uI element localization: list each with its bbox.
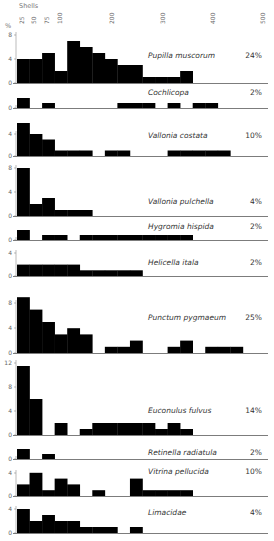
x-tick-label: 500 bbox=[259, 12, 266, 24]
histogram-bar bbox=[42, 235, 55, 240]
histogram-bar bbox=[92, 490, 105, 496]
y-tick-label: 0 bbox=[8, 236, 12, 243]
histogram-bar bbox=[80, 270, 93, 276]
x-tick-label: 100 bbox=[56, 12, 63, 24]
y-tick-label: 4 bbox=[8, 505, 12, 512]
histogram-bar bbox=[205, 103, 218, 108]
histogram-bar bbox=[30, 134, 43, 156]
x-tick-label: 400 bbox=[209, 12, 216, 24]
histogram-bar bbox=[130, 527, 143, 533]
x-axis-label: Shells bbox=[19, 2, 39, 10]
histogram-bar bbox=[105, 151, 118, 157]
species-percent: 10% bbox=[245, 131, 262, 140]
species-name: Vitrina pellucida bbox=[148, 467, 209, 476]
histogram-bar bbox=[42, 322, 55, 353]
species-percent: 4% bbox=[250, 197, 262, 206]
histogram-bar bbox=[67, 521, 80, 533]
y-tick-label: 12 bbox=[4, 359, 12, 366]
species-panel: 048Vallonia pulchella4% bbox=[8, 164, 268, 219]
histogram-bar bbox=[30, 265, 43, 276]
histogram-bar bbox=[218, 151, 231, 157]
histogram-bar bbox=[155, 77, 168, 83]
x-tick-label: 75 bbox=[43, 16, 50, 24]
histogram-bar bbox=[17, 230, 30, 240]
x-tick-label: 300 bbox=[159, 12, 166, 24]
histogram-bar bbox=[92, 53, 105, 83]
histogram-bar bbox=[180, 429, 193, 435]
histogram-bar bbox=[180, 341, 193, 353]
histogram-bar bbox=[55, 479, 68, 496]
histogram-bar bbox=[143, 490, 156, 496]
histogram-bar bbox=[143, 103, 156, 108]
histogram-bar bbox=[168, 103, 181, 108]
x-tick-label: 50 bbox=[30, 16, 37, 24]
histogram-bar bbox=[55, 235, 68, 240]
histogram-bar bbox=[42, 515, 55, 533]
histogram-bar bbox=[55, 210, 68, 216]
y-tick-label: 4 bbox=[8, 130, 12, 137]
species-panel: 0Hygromia hispida2% bbox=[8, 222, 268, 243]
species-percent: 14% bbox=[245, 406, 262, 415]
species-panel: 0Cochlicopa2% bbox=[8, 88, 268, 111]
histogram-bar bbox=[168, 77, 181, 83]
y-tick-label: 0 bbox=[8, 529, 12, 536]
histogram-bar bbox=[42, 140, 55, 157]
histogram-bar bbox=[67, 265, 80, 276]
histogram-bar bbox=[180, 490, 193, 496]
histogram-bar bbox=[92, 527, 105, 533]
y-tick-label: 0 bbox=[8, 272, 12, 279]
y-tick-label: 0 bbox=[8, 455, 12, 462]
species-name: Punctum pygmaeum bbox=[148, 313, 226, 322]
histogram-bar bbox=[42, 53, 55, 83]
species-percent: 25% bbox=[245, 313, 262, 322]
histogram-bar bbox=[130, 479, 143, 496]
histogram-bar bbox=[80, 334, 93, 353]
histogram-bar bbox=[205, 151, 218, 157]
species-name: Retinella radiatula bbox=[148, 448, 217, 457]
histogram-bar bbox=[130, 235, 143, 240]
species-percent: 10% bbox=[245, 467, 262, 476]
species-percent: 2% bbox=[250, 88, 262, 97]
y-tick-label: 0 bbox=[8, 212, 12, 219]
histogram-bar bbox=[67, 210, 80, 216]
histogram-bar bbox=[17, 265, 30, 276]
species-name: Vallonia costata bbox=[148, 131, 208, 140]
y-tick-label: 8 bbox=[8, 31, 12, 38]
histogram-bar bbox=[30, 310, 43, 353]
histogram-bar bbox=[42, 265, 55, 276]
histogram-bar bbox=[168, 347, 181, 353]
histogram-bar bbox=[67, 41, 80, 83]
histogram-bar bbox=[143, 77, 156, 83]
species-percent: 2% bbox=[250, 258, 262, 267]
y-tick-label: 0 bbox=[8, 104, 12, 111]
histogram-bar bbox=[42, 103, 55, 108]
species-name: Hygromia hispida bbox=[148, 222, 214, 231]
histogram-bar bbox=[55, 265, 68, 276]
y-tick-label: 0 bbox=[8, 349, 12, 356]
histogram-bar bbox=[55, 423, 68, 435]
histogram-bar bbox=[17, 484, 30, 496]
histogram-bar bbox=[180, 151, 193, 157]
histogram-bar bbox=[155, 490, 168, 496]
histogram-bar bbox=[80, 527, 93, 533]
histogram-bar bbox=[143, 423, 156, 435]
histogram-bar bbox=[180, 235, 193, 240]
histogram-bar bbox=[143, 235, 156, 240]
histogram-bar bbox=[168, 423, 181, 435]
y-tick-label: 0 bbox=[8, 431, 12, 438]
species-panel: 04812Euconulus fulvus14% bbox=[4, 359, 268, 438]
species-percent: 4% bbox=[250, 508, 262, 517]
histogram-bar bbox=[130, 423, 143, 435]
histogram-bar bbox=[67, 328, 80, 353]
histogram-bar bbox=[193, 151, 206, 157]
species-percent: 2% bbox=[250, 222, 262, 231]
y-tick-label: 4 bbox=[8, 249, 12, 256]
y-tick-label: 8 bbox=[8, 383, 12, 390]
histogram-bar bbox=[30, 204, 43, 216]
histogram-bar bbox=[80, 47, 93, 83]
histogram-bar bbox=[55, 151, 68, 157]
y-tick-label: 4 bbox=[8, 188, 12, 195]
species-percent: 24% bbox=[245, 51, 262, 60]
histogram-bar bbox=[67, 151, 80, 157]
histogram-bar bbox=[105, 423, 118, 435]
